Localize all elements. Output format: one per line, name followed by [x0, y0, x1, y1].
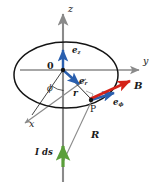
R-distance-label: R: [91, 130, 99, 140]
e-r-subscript: r: [84, 80, 87, 86]
point-P-label: P: [90, 105, 96, 114]
e-phi-subscript: ϕ: [118, 101, 123, 107]
x-axis-label: x: [29, 119, 34, 129]
e-z-subscript: z: [77, 49, 80, 55]
origin-marker: [61, 68, 65, 72]
e-r-vector-label: er: [79, 77, 87, 86]
e-r-vector-arrow: [63, 70, 79, 84]
B-field-vector-arrow: [90, 81, 130, 99]
B-field-vector-label: B: [134, 81, 142, 91]
current-loop: [14, 42, 118, 108]
radius-scalar-label: r: [73, 89, 78, 98]
origin-label: 0: [47, 61, 54, 71]
diagram-canvas: [0, 0, 161, 191]
R-ray: [63, 100, 92, 162]
e-z-vector-label: ez: [72, 46, 81, 55]
phi-angle-arc: [52, 86, 64, 91]
y-axis-label: y: [143, 56, 148, 66]
current-element-label: I ds: [35, 148, 53, 157]
e-phi-vector-label: eϕ: [113, 98, 124, 107]
phi-angle-label: ϕ: [47, 84, 53, 93]
physics-diagram-figure: z y x 0 ϕ ez er eϕ B r R P I ds: [0, 0, 161, 191]
z-axis-label: z: [68, 4, 73, 14]
point-P-marker: [89, 98, 93, 102]
